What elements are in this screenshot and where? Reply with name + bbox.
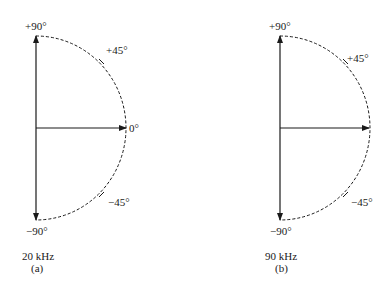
label-a-minus90: −90°: [26, 225, 48, 237]
label-a-plus90: +90°: [25, 20, 47, 32]
tick-minus45: [99, 192, 104, 197]
label-a-minus45: −45°: [108, 196, 130, 208]
label-b-plus45: +45°: [347, 52, 369, 64]
label-a-zero: 0°: [129, 122, 139, 134]
label-b-minus90: −90°: [270, 225, 292, 237]
label-b-plus90: +90°: [269, 20, 291, 32]
diagram-a: [36, 36, 126, 220]
caption-b: (b): [275, 262, 288, 275]
label-b-minus45: −45°: [351, 196, 373, 208]
phase-diagrams-canvas: [0, 0, 373, 289]
tick-minus45: [343, 192, 348, 197]
caption-a: (a): [31, 262, 43, 275]
label-a-plus45: +45°: [106, 44, 128, 56]
